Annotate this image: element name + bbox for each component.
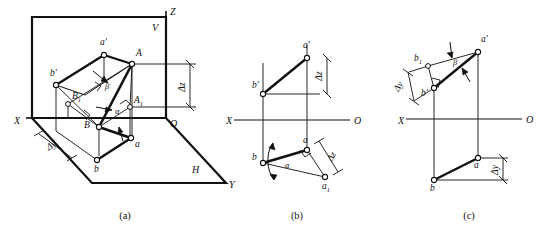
- node-b: [431, 177, 436, 182]
- plane-label-V: V: [152, 22, 160, 33]
- dimension-line-delta-y-upper: [408, 72, 414, 101]
- node-b1: [426, 64, 431, 69]
- point-label-a-prime: a′: [481, 34, 489, 44]
- point-label-b1-sub: 1: [419, 58, 422, 65]
- angle-label-alpha: α: [285, 160, 290, 170]
- dimension-delta-z-lower: Δz: [324, 150, 338, 164]
- rotation-arc-head-bottom: [270, 174, 277, 180]
- node-a: [128, 135, 133, 140]
- angle-label-alpha: α: [115, 106, 120, 116]
- point-label-b-prime: b′: [421, 88, 429, 98]
- node-a-prime: [101, 52, 106, 57]
- panel-a: V H Z X Y O a′ b′ A A1 B B1 a b β α Δz Δ…: [13, 6, 236, 190]
- axis-label-O: O: [526, 114, 533, 125]
- dimension-delta-z: Δz: [177, 82, 187, 93]
- node-B1: [66, 102, 71, 107]
- axis-label-O: O: [354, 115, 361, 126]
- axis-label-Y: Y: [229, 179, 236, 190]
- point-label-a1: a1: [322, 181, 330, 193]
- line-b-prime-a-prime: [56, 55, 104, 85]
- line-b-prime-a-prime: [263, 58, 307, 94]
- dimension-delta-y-lower: Δy: [490, 164, 500, 176]
- dimension-tick-dz-low-top: [314, 138, 324, 144]
- node-A: [129, 61, 134, 66]
- line-a-prime-A: [104, 55, 132, 64]
- angle-label-beta: β: [104, 81, 110, 91]
- point-label-b-prime: b′: [50, 68, 58, 78]
- caption-a: (a): [119, 210, 131, 222]
- point-label-A1: A1: [133, 95, 143, 107]
- caption-c: (c): [463, 210, 475, 222]
- node-b-prime: [53, 82, 58, 87]
- axis-label-X: X: [397, 115, 405, 126]
- point-label-a-prime: a′: [100, 37, 108, 47]
- right-angle-mark-A1: [120, 100, 130, 104]
- node-b-prime: [260, 91, 265, 96]
- dimension-tick-dz-low-bottom: [333, 169, 343, 175]
- node-a1: [322, 174, 327, 179]
- line-b-a: [434, 158, 478, 180]
- dimension-delta-y-upper: Δy: [391, 79, 405, 94]
- panel-b: X O a′ b′ a b a1 α Δz Δz: [225, 40, 361, 193]
- axis-label-Z: Z: [170, 6, 176, 17]
- node-a-prime: [304, 55, 309, 60]
- point-label-b1: b1: [414, 53, 422, 65]
- point-label-a: a: [303, 135, 308, 145]
- axis-label-X: X: [225, 115, 233, 126]
- point-label-A: A: [135, 48, 142, 58]
- dimension-extension-b1: [409, 66, 428, 72]
- point-label-a-prime: a′: [303, 40, 311, 50]
- node-A1: [128, 105, 133, 110]
- dimension-delta-z-upper: Δz: [314, 71, 324, 82]
- caption-b: (b): [291, 210, 304, 222]
- node-b: [94, 157, 99, 162]
- line-B-a: [99, 127, 131, 138]
- line-b-a: [97, 138, 131, 160]
- point-label-B1-sub: 1: [78, 96, 81, 103]
- dimension-delta-y: Δy: [44, 138, 59, 153]
- plane-label-H: H: [191, 164, 200, 175]
- node-b-prime: [431, 85, 436, 90]
- point-label-b-prime: b′: [252, 80, 260, 90]
- node-a-prime: [475, 49, 480, 54]
- point-label-a: a: [474, 160, 479, 170]
- axis-label-X: X: [13, 115, 21, 126]
- line-b1-b-prime: [428, 66, 434, 88]
- point-label-B: B: [84, 120, 90, 130]
- figure-root: V H Z X Y O a′ b′ A A1 B B1 a b β α Δz Δ…: [0, 0, 546, 231]
- node-b: [260, 160, 265, 165]
- node-a: [304, 147, 309, 152]
- angle-arrow-lower-head: [118, 127, 123, 133]
- node-B: [96, 124, 101, 129]
- captions: (a) (b) (c): [119, 210, 475, 222]
- point-label-a: a: [135, 139, 140, 149]
- point-label-b: b: [252, 152, 257, 162]
- rotation-arrow-lower-head: [462, 68, 468, 75]
- dimension-tick-delta-y-start: [34, 130, 44, 136]
- panel-c: X O a′ b1 b′ a b β Δy Δy: [391, 34, 533, 193]
- point-label-b: b: [94, 164, 99, 174]
- point-label-a1-sub: 1: [327, 186, 330, 193]
- axis-label-O: O: [170, 118, 177, 129]
- angle-label-beta: β: [452, 57, 458, 67]
- point-label-b: b: [430, 183, 435, 193]
- dimension-tick-dy-up-top: [403, 69, 413, 76]
- technical-drawing-svg: V H Z X Y O a′ b′ A A1 B B1 a b β α Δz Δ…: [0, 0, 546, 231]
- point-label-A1-sub: 1: [140, 100, 143, 107]
